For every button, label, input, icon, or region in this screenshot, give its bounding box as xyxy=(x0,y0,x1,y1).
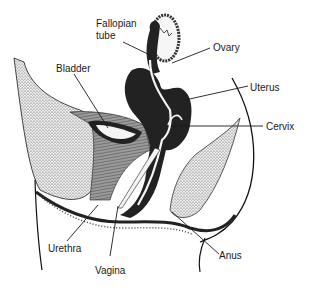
diagram-canvas: Fallopian tube Ovary Bladder Uterus Cerv… xyxy=(0,0,312,290)
label-urethra: Urethra xyxy=(48,243,82,254)
label-bladder: Bladder xyxy=(56,63,91,74)
label-uterus: Uterus xyxy=(250,82,279,93)
label-anus: Anus xyxy=(219,250,242,261)
anatomy-diagram: Fallopian tube Ovary Bladder Uterus Cerv… xyxy=(0,0,312,290)
label-fallopian-tube-line1: Fallopian xyxy=(96,18,137,29)
pubic-tissue xyxy=(14,58,98,199)
label-ovary: Ovary xyxy=(213,42,240,53)
label-fallopian-tube-line2: tube xyxy=(96,30,116,41)
perineum-hair xyxy=(40,196,192,234)
leg-outline-right xyxy=(199,238,205,272)
label-vagina: Vagina xyxy=(95,265,126,276)
label-cervix: Cervix xyxy=(266,121,294,132)
